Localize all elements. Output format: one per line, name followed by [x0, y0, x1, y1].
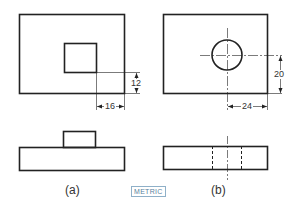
view-a-front-boss [64, 132, 96, 148]
view-b-top-outline [164, 15, 268, 94]
view-a-top-outline [20, 15, 125, 94]
dim-label-20: 20 [274, 70, 284, 79]
dim-label-16: 16 [104, 102, 116, 111]
dim-label-12: 12 [131, 79, 141, 88]
view-b-hole [212, 40, 242, 70]
caption-a: (a) [65, 183, 80, 197]
view-a-top-boss [65, 44, 97, 73]
view-b-front-base [164, 147, 268, 170]
caption-b: (b) [211, 183, 226, 197]
dim-label-24: 24 [241, 102, 253, 111]
drawing-canvas [0, 0, 298, 212]
metric-badge: METRIC [131, 186, 166, 197]
view-a-front-base [20, 148, 125, 171]
